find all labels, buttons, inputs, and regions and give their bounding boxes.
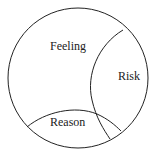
diagram: Feeling Risk Reason — [0, 0, 154, 157]
risk-label: Risk — [118, 69, 140, 83]
risk-arc — [90, 30, 123, 139]
feeling-label: Feeling — [50, 39, 86, 53]
reason-label: Reason — [50, 115, 85, 129]
